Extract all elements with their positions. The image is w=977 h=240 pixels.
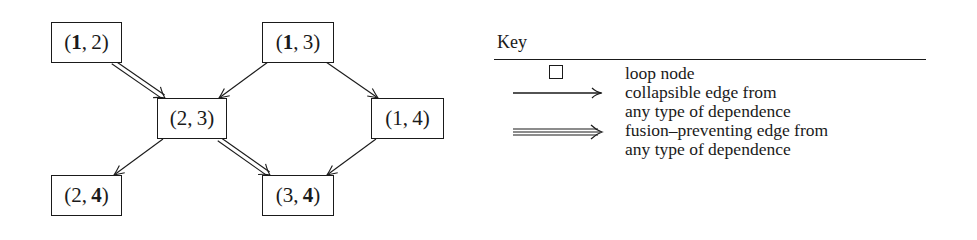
node-index-second: 3 bbox=[197, 106, 208, 131]
paren-close: ) bbox=[313, 183, 320, 208]
key-legend: Key loop node collapsible edge from any … bbox=[494, 26, 926, 159]
node-index-first: 1 bbox=[71, 30, 82, 55]
key-item-collapsible-edge: collapsible edge from any type of depend… bbox=[494, 83, 926, 121]
node-separator: , bbox=[82, 183, 91, 208]
node-index-second: 4 bbox=[91, 183, 102, 208]
key-item-label: loop node bbox=[625, 64, 695, 83]
collapsible-edge bbox=[219, 62, 268, 98]
key-item-label: any type of dependence bbox=[625, 140, 791, 159]
fusion-preventing-edge bbox=[112, 60, 165, 98]
paren-open: ( bbox=[276, 30, 283, 55]
key-item-label: collapsible edge from bbox=[625, 83, 777, 102]
loop-node-n24: (2, 4) bbox=[51, 175, 122, 216]
key-item-label: any type of dependence bbox=[625, 102, 791, 121]
collapsible-edge bbox=[114, 139, 163, 175]
node-index-first: 1 bbox=[283, 30, 294, 55]
collapsible-edge bbox=[326, 62, 378, 98]
paren-open: ( bbox=[64, 30, 71, 55]
node-index-second: 4 bbox=[303, 183, 314, 208]
key-divider bbox=[494, 59, 926, 60]
node-separator: , bbox=[293, 30, 302, 55]
loop-node-n12: (1, 2) bbox=[51, 22, 122, 63]
loop-node-square-icon bbox=[549, 65, 563, 79]
key-item-loop-node: loop node bbox=[494, 64, 926, 83]
node-index-second: 2 bbox=[91, 30, 102, 55]
node-index-second: 3 bbox=[303, 30, 314, 55]
loop-node-n23: (2, 3) bbox=[157, 98, 227, 139]
node-separator: , bbox=[293, 183, 302, 208]
paren-close: ) bbox=[207, 106, 214, 131]
loop-node-n14: (1, 4) bbox=[371, 98, 444, 139]
loop-node-n34: (3, 4) bbox=[262, 175, 334, 216]
node-index-first: 3 bbox=[283, 183, 294, 208]
node-index-first: 2 bbox=[71, 183, 82, 208]
paren-open: ( bbox=[170, 106, 177, 131]
node-index-second: 4 bbox=[412, 106, 423, 131]
paren-close: ) bbox=[102, 30, 109, 55]
paren-open: ( bbox=[64, 183, 71, 208]
double-arrow-icon bbox=[512, 124, 604, 140]
single-arrow-icon bbox=[512, 86, 604, 100]
loop-node-n13: (1, 3) bbox=[262, 22, 334, 63]
node-index-first: 1 bbox=[392, 106, 403, 131]
node-separator: , bbox=[187, 106, 196, 131]
node-separator: , bbox=[82, 30, 91, 55]
node-index-first: 2 bbox=[177, 106, 188, 131]
key-title: Key bbox=[494, 26, 926, 59]
collapsible-edge bbox=[327, 139, 376, 175]
paren-open: ( bbox=[385, 106, 392, 131]
key-item-fusion-preventing-edge: fusion–preventing edge from any type of … bbox=[494, 121, 926, 159]
paren-close: ) bbox=[313, 30, 320, 55]
paren-open: ( bbox=[276, 183, 283, 208]
paren-close: ) bbox=[102, 183, 109, 208]
fusion-preventing-edge bbox=[218, 137, 270, 175]
key-item-label: fusion–preventing edge from bbox=[625, 121, 828, 140]
paren-close: ) bbox=[423, 106, 430, 131]
node-separator: , bbox=[403, 106, 412, 131]
